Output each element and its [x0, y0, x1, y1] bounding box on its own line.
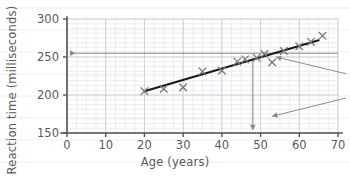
y-tick-label: 150 — [37, 126, 59, 140]
x-tick-label: 0 — [63, 138, 70, 152]
x-tick-label: 60 — [292, 138, 307, 152]
data-point-marker — [269, 59, 276, 66]
y-tick-label: 250 — [37, 50, 59, 64]
grid-minor — [67, 19, 338, 133]
axis-ticks — [63, 19, 338, 137]
chart-stage: 010203040506070150200250300 Age (years) … — [0, 0, 350, 181]
x-tick-label: 20 — [137, 138, 152, 152]
scatter-chart: 010203040506070150200250300 Age (years) … — [0, 0, 350, 181]
x-tick-label: 70 — [331, 138, 346, 152]
x-axis-title: Age (years) — [141, 155, 210, 169]
y-axis-title: Reaction time (milliseconds) — [5, 6, 19, 175]
x-tick-label: 40 — [215, 138, 230, 152]
y-tick-label: 300 — [37, 12, 59, 26]
y-tick-label: 200 — [37, 88, 59, 102]
x-tick-label: 30 — [176, 138, 191, 152]
x-tick-label: 50 — [253, 138, 268, 152]
x-tick-label: 10 — [98, 138, 113, 152]
